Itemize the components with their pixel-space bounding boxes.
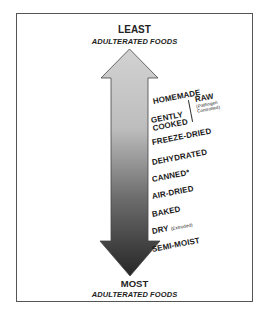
double-arrow-icon xyxy=(0,0,269,322)
most-subtitle: ADULTERATED FOODS xyxy=(0,290,269,299)
most-title: MOST xyxy=(0,278,269,289)
